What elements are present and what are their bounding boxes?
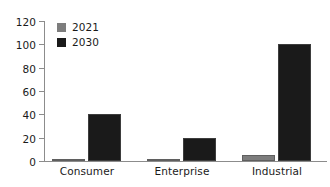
y-axis-line <box>44 21 45 162</box>
y-tick-label-0: 0 <box>0 157 36 168</box>
bar-consumer-2021 <box>52 159 85 161</box>
y-tick-mark-60 <box>39 91 44 92</box>
y-tick-label-120: 120 <box>0 17 36 28</box>
bar-industrial-2021 <box>242 155 275 161</box>
legend-swatch-icon-2030 <box>57 38 66 47</box>
y-tick-label-80: 80 <box>0 64 36 75</box>
legend-label-2021: 2021 <box>72 22 99 33</box>
x-tick-label-enterprise: Enterprise <box>132 166 232 177</box>
legend-label-2030: 2030 <box>72 37 99 48</box>
y-tick-label-40: 40 <box>0 110 36 121</box>
legend: 2021 2030 <box>57 20 99 50</box>
y-tick-mark-40 <box>39 114 44 115</box>
y-tick-mark-20 <box>39 138 44 139</box>
legend-item-2021: 2021 <box>57 20 99 35</box>
bar-enterprise-2030 <box>183 138 216 161</box>
y-tick-label-100: 100 <box>0 40 36 51</box>
y-tick-mark-100 <box>39 44 44 45</box>
y-tick-mark-120 <box>39 21 44 22</box>
bar-industrial-2030 <box>278 44 311 161</box>
bar-consumer-2030 <box>88 114 121 161</box>
x-tick-label-consumer: Consumer <box>37 166 137 177</box>
y-tick-label-20: 20 <box>0 134 36 145</box>
x-tick-label-industrial: Industrial <box>227 166 327 177</box>
y-tick-mark-80 <box>39 68 44 69</box>
legend-item-2030: 2030 <box>57 35 99 50</box>
bar-enterprise-2021 <box>147 159 180 161</box>
x-axis-line <box>44 161 327 162</box>
y-tick-label-60: 60 <box>0 87 36 98</box>
y-tick-mark-0 <box>39 161 44 162</box>
bar-chart: 120 100 80 60 40 20 0 Consumer Enterpris… <box>0 0 330 187</box>
legend-swatch-icon-2021 <box>57 23 66 32</box>
